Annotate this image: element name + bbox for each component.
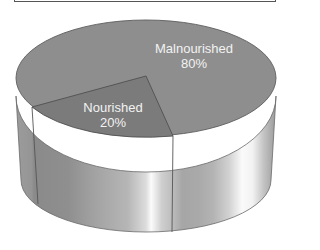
label-malnourished: Malnourished 80%: [150, 41, 238, 71]
label-malnourished-value: 80%: [150, 56, 238, 71]
label-nourished-value: 20%: [74, 115, 152, 130]
label-nourished-name: Nourished: [74, 100, 152, 115]
label-nourished: Nourished 20%: [74, 100, 152, 130]
label-malnourished-name: Malnourished: [150, 41, 238, 56]
